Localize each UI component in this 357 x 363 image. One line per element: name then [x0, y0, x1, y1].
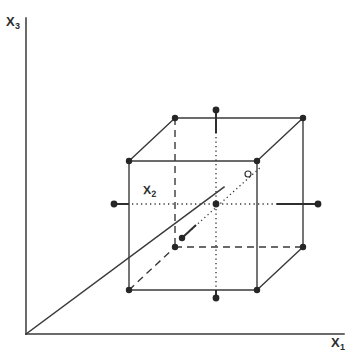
axis-label-x3: X3: [6, 14, 20, 29]
hidden-edge-bottom-left-receding: [129, 247, 175, 290]
axis-label-x2: X2: [143, 183, 157, 198]
axis-label-x2-sub: 2: [151, 189, 157, 199]
vertex-front-top-left: [126, 158, 132, 164]
axis-label-x3-sub: 3: [15, 21, 20, 31]
edge-receding-bottom-right: [257, 247, 303, 290]
marker-face-center-left: [111, 201, 118, 208]
axis-label-x1-sub: 1: [340, 342, 345, 352]
vertex-back-top-left: [172, 115, 178, 121]
figure-container: X3 X1 X2: [0, 0, 357, 363]
axis-group: [26, 18, 344, 334]
axis-x2-line: [26, 187, 224, 334]
axis-label-x1: X1: [331, 335, 345, 350]
marker-cube-center: [213, 201, 220, 208]
marker-face-center-top: [213, 107, 220, 114]
vertex-back-bottom-right: [300, 244, 306, 250]
vertex-back-top-right: [300, 115, 306, 121]
marker-open-circle: [245, 171, 251, 177]
axis-label-x1-main: X: [331, 335, 340, 350]
vertex-back-bottom-left: [172, 244, 178, 250]
vertex-front-bottom-left: [126, 287, 132, 293]
marker-diagonal-point: [179, 235, 185, 241]
marker-face-center-right: [315, 201, 322, 208]
marker-face-center-bottom: [213, 295, 220, 302]
edge-receding-top-right: [257, 118, 303, 161]
vertex-front-bottom-right: [254, 287, 260, 293]
cube-coordinate-diagram: [0, 0, 357, 363]
vertex-front-top-right: [254, 158, 260, 164]
edge-receding-top-left: [129, 118, 175, 161]
axis-label-x3-main: X: [6, 14, 15, 29]
